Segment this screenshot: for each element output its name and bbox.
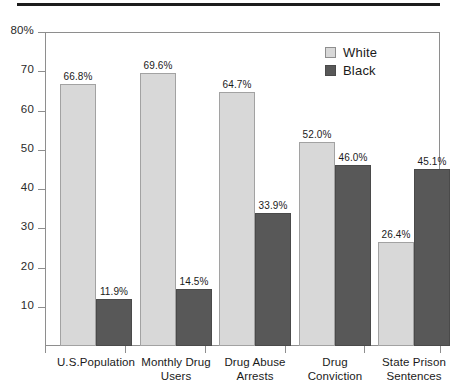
bar-white-4 [378, 242, 414, 346]
bar-value-label: 64.7% [209, 79, 265, 90]
category-label-line: State Prison [360, 355, 456, 369]
category-label-line: Sentences [360, 369, 456, 383]
x-axis-tick [205, 346, 206, 353]
bar-black-4 [414, 169, 450, 346]
y-tick-label: 80% [0, 24, 34, 36]
x-axis-tick [45, 346, 46, 353]
y-tick-mark [38, 32, 45, 33]
bar-black-2 [255, 213, 291, 346]
legend-swatch-white-icon [325, 47, 336, 58]
y-tick-mark [38, 150, 45, 151]
y-tick-label: 10 [0, 299, 34, 311]
bar-value-label: 46.0% [325, 152, 381, 163]
category-label-4: State PrisonSentences [360, 355, 456, 383]
y-tick-label: 70 [0, 63, 34, 75]
bar-value-label: 52.0% [289, 129, 345, 140]
x-axis-tick [364, 346, 365, 353]
y-tick-mark [38, 228, 45, 229]
bar-white-1 [140, 73, 176, 346]
bar-white-2 [219, 92, 255, 346]
x-axis-tick [285, 346, 286, 353]
bar-black-1 [176, 289, 212, 346]
bar-white-0 [60, 84, 96, 346]
y-tick-mark [38, 111, 45, 112]
legend: WhiteBlack [325, 44, 377, 80]
y-tick-mark [38, 189, 45, 190]
y-tick-mark [38, 268, 45, 269]
y-tick-mark [38, 307, 45, 308]
bar-value-label: 69.6% [130, 60, 186, 71]
bar-black-3 [335, 165, 371, 346]
y-tick-label: 20 [0, 260, 34, 272]
legend-swatch-black-icon [325, 65, 336, 76]
y-tick-mark [38, 71, 45, 72]
legend-label: White [343, 45, 377, 60]
bar-value-label: 45.1% [404, 156, 456, 167]
x-axis-tick [440, 346, 441, 353]
bar-white-3 [299, 142, 335, 346]
y-tick-label: 40 [0, 181, 34, 193]
bar-black-0 [96, 299, 132, 346]
legend-item-white: White [325, 44, 377, 60]
bar-value-label: 14.5% [166, 276, 222, 287]
bar-value-label: 66.8% [50, 71, 106, 82]
y-tick-label: 50 [0, 142, 34, 154]
bar-value-label: 11.9% [86, 286, 142, 297]
y-tick-label: 60 [0, 103, 34, 115]
legend-item-black: Black [325, 62, 377, 78]
legend-label: Black [343, 63, 376, 78]
x-axis-tick [125, 346, 126, 353]
y-tick-label: 30 [0, 220, 34, 232]
bar-value-label: 33.9% [245, 200, 301, 211]
